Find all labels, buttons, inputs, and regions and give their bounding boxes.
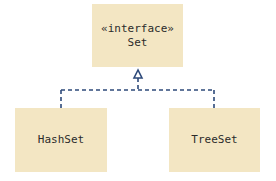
interface-set-box: «interface» Set — [92, 4, 183, 67]
class-name-label: TreeSet — [191, 133, 237, 147]
treeset-class-box: TreeSet — [169, 108, 260, 172]
class-name-label: HashSet — [38, 133, 84, 147]
stereotype-label: «interface» — [101, 22, 174, 36]
hashset-class-box: HashSet — [15, 108, 107, 172]
diagram-canvas: «interface» Set HashSet TreeSet — [0, 0, 276, 181]
hollow-triangle-arrowhead-icon — [134, 70, 142, 78]
class-name-label: Set — [128, 36, 148, 50]
